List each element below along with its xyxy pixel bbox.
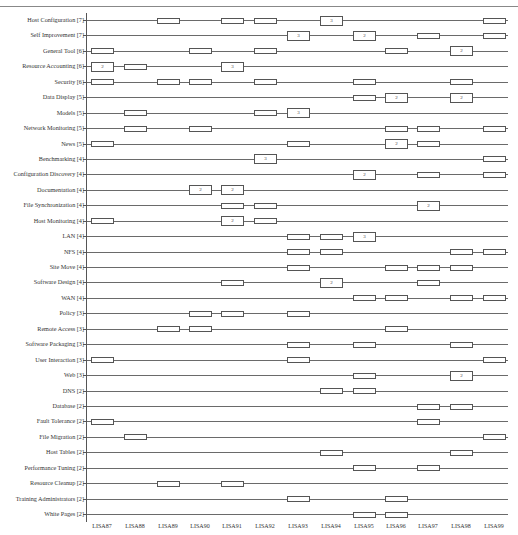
- chart-row: User Interaction [3]: [0, 354, 518, 366]
- row-label: Benchmarking [4]: [39, 153, 84, 165]
- presence-box: [189, 79, 212, 85]
- row-line: [87, 391, 508, 392]
- row-label: General Tool [6]: [43, 45, 84, 57]
- count-label: 2: [222, 186, 243, 194]
- presence-box: [417, 465, 440, 471]
- presence-box: 3: [287, 31, 310, 41]
- chart-row: Software Design [4]2: [0, 276, 518, 288]
- top-border: [0, 6, 518, 7]
- x-tick-label: LISA97: [411, 523, 445, 529]
- presence-box: [385, 512, 408, 518]
- row-line: [87, 82, 508, 83]
- presence-box: [91, 79, 114, 85]
- presence-box: [385, 48, 408, 54]
- presence-box: 2: [189, 185, 212, 195]
- row-label: DNS [2]: [63, 385, 84, 397]
- row-line: [87, 97, 508, 98]
- count-label: 3: [288, 109, 309, 117]
- presence-box: [221, 481, 244, 487]
- row-label: Resource Cleanup [2]: [30, 477, 84, 489]
- chart-row: Performance Tuning [2]: [0, 462, 518, 474]
- row-line: [87, 282, 508, 283]
- count-label: 2: [451, 47, 472, 55]
- presence-box: [353, 79, 376, 85]
- count-label: 2: [418, 202, 439, 210]
- presence-box: [189, 126, 212, 132]
- row-label: File Synchronization [4]: [24, 199, 85, 211]
- presence-box: [91, 357, 114, 363]
- chart-row: Network Monitoring [5]: [0, 122, 518, 134]
- row-label: NFS [4]: [64, 246, 84, 258]
- presence-box: [287, 234, 310, 240]
- row-line: [87, 468, 508, 469]
- row-label: Host Monitoring [4]: [34, 215, 84, 227]
- presence-box: [417, 419, 440, 425]
- presence-box: [91, 141, 114, 147]
- presence-box: [417, 33, 440, 39]
- count-label: 2: [321, 279, 342, 287]
- row-label: Host Tables [2]: [46, 446, 84, 458]
- presence-box: 2: [450, 371, 473, 381]
- chart-row: File Synchronization [4]2: [0, 199, 518, 211]
- presence-box: [287, 342, 310, 348]
- presence-box: 3: [221, 62, 244, 72]
- presence-box: 2: [450, 93, 473, 103]
- x-tick-label: LISA95: [347, 523, 381, 529]
- chart-row: Site Move [4]: [0, 261, 518, 273]
- presence-box: [417, 141, 440, 147]
- chart-row: Data Display [5]22: [0, 91, 518, 103]
- count-label: 3: [321, 17, 342, 25]
- row-line: [87, 205, 508, 206]
- row-line: [87, 437, 508, 438]
- chart-row: White Pages [2]: [0, 508, 518, 520]
- row-line: [87, 406, 508, 407]
- presence-box: [450, 450, 473, 456]
- presence-box: [483, 33, 506, 39]
- presence-box: [287, 141, 310, 147]
- row-line: [87, 190, 508, 191]
- count-label: 2: [386, 140, 407, 148]
- row-label: User Interaction [3]: [35, 354, 84, 366]
- row-line: [87, 298, 508, 299]
- presence-box: [157, 79, 180, 85]
- presence-box: [254, 110, 277, 116]
- presence-box: [483, 126, 506, 132]
- row-label: Models [5]: [57, 107, 84, 119]
- presence-box: [385, 326, 408, 332]
- presence-box: [353, 342, 376, 348]
- presence-box: [450, 249, 473, 255]
- presence-box: 2: [353, 170, 376, 180]
- presence-box: [287, 496, 310, 502]
- presence-box: [287, 265, 310, 271]
- row-label: WAN [4]: [61, 292, 84, 304]
- presence-box: 2: [385, 139, 408, 149]
- presence-box: [189, 326, 212, 332]
- row-label: Self Improvement [7]: [30, 29, 84, 41]
- chart-row: Host Configuration [7]3: [0, 14, 518, 26]
- row-label: Security [6]: [55, 76, 84, 88]
- presence-box: [450, 265, 473, 271]
- row-label: Training Administrators [2]: [16, 493, 84, 505]
- x-tick-label: LISA88: [118, 523, 152, 529]
- presence-box: [417, 172, 440, 178]
- row-line: [87, 159, 508, 160]
- x-tick-label: LISA98: [444, 523, 478, 529]
- presence-box: 2: [221, 216, 244, 226]
- presence-box: [483, 357, 506, 363]
- presence-box: 3: [287, 108, 310, 118]
- chart-row: Database [2]: [0, 400, 518, 412]
- row-label: Configuration Discovery [4]: [14, 168, 84, 180]
- chart-row: Configuration Discovery [4]2: [0, 168, 518, 180]
- x-tick-label: LISA94: [314, 523, 348, 529]
- presence-box: [287, 311, 310, 317]
- presence-box: [189, 311, 212, 317]
- row-label: Resource Accounting [6]: [22, 60, 84, 72]
- chart-row: Benchmarking [4]3: [0, 153, 518, 165]
- presence-box: [320, 249, 343, 255]
- row-label: File Migration [2]: [39, 431, 84, 443]
- row-label: Documentation [4]: [37, 184, 84, 196]
- presence-box: 3: [254, 154, 277, 164]
- row-label: Database [2]: [53, 400, 84, 412]
- presence-box: [124, 110, 147, 116]
- presence-box: [320, 388, 343, 394]
